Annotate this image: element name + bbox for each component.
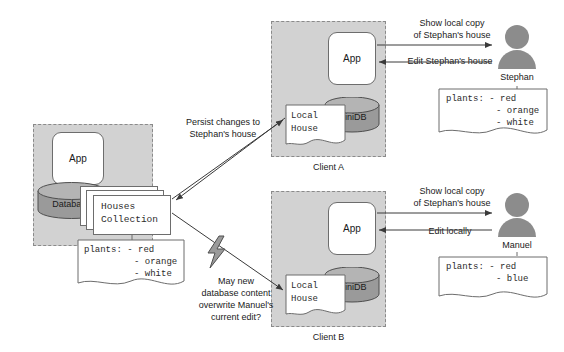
diagram-canvas: Server App Database Houses Collection pl…: [0, 0, 564, 352]
client-a-local-house-line2: House: [291, 123, 318, 135]
client-a-local-house-line1: Local: [291, 110, 318, 122]
stephan-show-label: Show local copy of Stephan's house: [400, 17, 504, 41]
manuel-note-line2: - blue: [496, 273, 528, 285]
stephan-note-line1: plants: - red: [446, 93, 516, 105]
server-note-line1: plants: - red: [84, 244, 154, 256]
manuel-name-label: Manuel: [487, 240, 547, 250]
houses-collection-line2: Collection: [101, 213, 158, 226]
manuel-note-line1: plants: - red: [446, 261, 516, 273]
client-b-app-box: App: [328, 202, 376, 255]
conflict-question-label: May new database content overwrite Manue…: [175, 275, 297, 323]
manuel-show-label: Show local copy of Stephan's house: [400, 185, 504, 209]
manuel-edit-label: Edit locally: [410, 225, 490, 237]
stephan-name-label: Stephan: [487, 72, 547, 82]
client-a-local-house-note: Local House: [285, 104, 346, 150]
houses-collection-stack: Houses Collection: [80, 186, 172, 236]
conflict-bolt-icon: [208, 236, 225, 268]
server-house-note: plants: - red - orange - white: [77, 239, 185, 291]
server-app-box: App: [52, 132, 104, 185]
server-note-line3: - white: [134, 268, 172, 280]
stephan-note-line2: - orange: [496, 105, 539, 117]
houses-collection-line1: Houses: [101, 200, 135, 213]
stephan-house-note: plants: - red - orange - white: [438, 88, 548, 140]
server-note-line2: - orange: [134, 256, 177, 268]
manuel-house-note: plants: - red - blue: [438, 256, 548, 304]
client-a-app-box: App: [328, 32, 376, 85]
client-a-zone-label: Client A: [271, 162, 386, 172]
persist-changes-label: Persist changes to Stephan's house: [163, 116, 283, 140]
stephan-edit-label: Edit Stephan's house: [395, 55, 505, 67]
stephan-note-line3: - white: [496, 117, 534, 129]
client-b-zone-label: Client B: [271, 332, 386, 342]
